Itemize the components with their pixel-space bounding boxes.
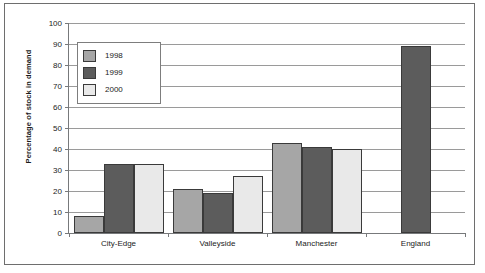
legend-item-1999: 1999 — [83, 64, 155, 81]
bar-england-1999 — [401, 46, 431, 233]
legend-item-1998: 1998 — [83, 47, 155, 64]
x-axis-label-manchester: Manchester — [267, 239, 366, 248]
x-axis-tick — [69, 233, 70, 237]
x-axis-tick — [465, 233, 466, 237]
x-axis-tick — [168, 233, 169, 237]
bar-city-edge-1999 — [104, 164, 134, 233]
y-axis-label: 30 — [53, 166, 62, 175]
legend-swatch-1999 — [83, 67, 96, 79]
x-axis-label-england: England — [366, 239, 465, 248]
x-axis-tick — [366, 233, 367, 237]
legend-label-1998: 1998 — [105, 51, 123, 60]
legend-label-2000: 2000 — [105, 85, 123, 94]
bar-group-bars — [168, 23, 267, 233]
bar-manchester-1999 — [302, 147, 332, 233]
bar-group-bars — [267, 23, 366, 233]
bar-city-edge-1998 — [74, 216, 104, 233]
bar-valleyside-1998 — [173, 189, 203, 233]
y-axis-label: 60 — [53, 103, 62, 112]
y-axis-label: 0 — [58, 229, 62, 238]
y-axis-label: 50 — [53, 124, 62, 133]
bar-manchester-1998 — [272, 143, 302, 233]
y-axis-label: 20 — [53, 187, 62, 196]
chart-legend: 1998 1999 2000 — [77, 42, 161, 104]
bar-group-bars — [366, 23, 465, 233]
bar-group: Valleyside — [168, 23, 267, 233]
bar-group: Manchester — [267, 23, 366, 233]
bar-chart: Percentage of stock in demand 0102030405… — [5, 4, 476, 266]
legend-item-2000: 2000 — [83, 81, 155, 98]
bar-group: England — [366, 23, 465, 233]
bar-valleyside-2000 — [233, 176, 263, 233]
y-axis-label: 70 — [53, 82, 62, 91]
bar-manchester-2000 — [332, 149, 362, 233]
legend-label-1999: 1999 — [105, 68, 123, 77]
legend-swatch-1998 — [83, 50, 96, 62]
x-axis-label-valleyside: Valleyside — [168, 239, 267, 248]
legend-swatch-2000 — [83, 84, 96, 96]
y-axis-label: 100 — [49, 19, 62, 28]
bar-city-edge-2000 — [134, 164, 164, 233]
y-axis-label: 80 — [53, 61, 62, 70]
x-axis-tick — [267, 233, 268, 237]
y-axis-title: Percentage of stock in demand — [24, 32, 33, 182]
y-axis-label: 90 — [53, 40, 62, 49]
bar-valleyside-1999 — [203, 193, 233, 233]
x-axis-label-city-edge: City-Edge — [69, 239, 168, 248]
y-axis-label: 40 — [53, 145, 62, 154]
figure-frame: Percentage of stock in demand 0102030405… — [4, 3, 475, 265]
y-axis-label: 10 — [53, 208, 62, 217]
